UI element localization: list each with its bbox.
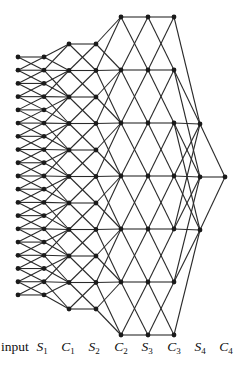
edge-s2-c2 [96, 150, 121, 176]
edge-s1-c1 [44, 97, 69, 110]
node-input [16, 226, 21, 231]
node-s1 [42, 213, 47, 218]
node-input [16, 94, 21, 99]
node-c3 [172, 280, 177, 285]
edge-s1-c1 [44, 282, 69, 309]
node-s1 [42, 147, 47, 152]
node-c2 [119, 15, 124, 20]
node-s3 [146, 121, 151, 126]
edge-s2-c2 [96, 123, 121, 124]
edge-s4-c4 [200, 124, 225, 177]
edge-c3-s4 [174, 70, 200, 124]
layer-label-c1: C1 [61, 339, 75, 356]
label-sub: 3 [148, 346, 153, 356]
edge-s1-c1 [44, 163, 69, 177]
node-s3 [146, 68, 151, 73]
node-input [16, 293, 21, 298]
label-main: S [194, 339, 201, 354]
node-s1 [42, 68, 47, 73]
layer-label-s1: S1 [36, 339, 47, 356]
edge-s2-c2 [96, 176, 121, 177]
node-s2 [94, 148, 99, 153]
node-input [16, 213, 21, 218]
edge-s1-c1 [44, 242, 69, 256]
node-s1 [42, 293, 47, 298]
node-s3 [146, 174, 151, 179]
edge-c3-s4 [174, 230, 200, 282]
edge-s1-c1 [44, 150, 69, 163]
label-sub: 1 [70, 346, 75, 356]
node-c2 [119, 280, 124, 285]
label-main: S [36, 339, 43, 354]
node-input [16, 174, 21, 179]
layer-label-s3: S3 [141, 339, 152, 356]
edge-s2-c2 [96, 229, 121, 230]
node-c3 [172, 174, 177, 179]
node-s2 [94, 254, 99, 259]
layer-label-s4: S4 [194, 339, 205, 356]
label-main: S [88, 339, 95, 354]
node-c2 [119, 333, 124, 338]
node-input [16, 81, 21, 86]
node-s1 [42, 266, 47, 271]
edge-s2-c2 [96, 17, 121, 44]
node-c3 [172, 227, 177, 232]
node-s2 [94, 121, 99, 126]
node-c1 [67, 42, 72, 47]
node-c2 [119, 68, 124, 73]
node-c1 [67, 95, 72, 100]
edge-s1-c1 [44, 44, 69, 70]
node-input [16, 68, 21, 73]
node-s1 [42, 200, 47, 205]
layer-label-input: input [1, 339, 29, 355]
node-s1 [42, 226, 47, 231]
edge-s2-c2 [96, 123, 121, 150]
edge-s2-c2 [96, 97, 121, 123]
edge-s1-c1 [44, 283, 69, 295]
edge-s2-c2 [96, 203, 121, 229]
node-s1 [42, 160, 47, 165]
network-diagram [0, 0, 244, 367]
node-c3 [172, 121, 177, 126]
node-s2 [94, 307, 99, 312]
edge-s2-c2 [96, 309, 121, 335]
node-s2 [94, 42, 99, 47]
node-c1 [67, 254, 72, 259]
node-s4 [198, 122, 203, 127]
node-c1 [67, 227, 72, 232]
edge-s1-c1 [44, 230, 69, 243]
edge-s1-c1 [44, 229, 69, 230]
node-input [16, 134, 21, 139]
edge-s2-c2 [96, 44, 121, 70]
node-s3 [146, 15, 151, 20]
node-s1 [42, 55, 47, 60]
node-c1 [67, 307, 72, 312]
node-c2 [119, 227, 124, 232]
edge-s1-c1 [44, 57, 69, 71]
label-main: C [114, 339, 123, 354]
node-input [16, 200, 21, 205]
node-input [16, 121, 21, 126]
edge-s1-c1 [44, 216, 69, 230]
node-s1 [42, 107, 47, 112]
edge-s1-c1 [44, 203, 69, 216]
node-c1 [67, 201, 72, 206]
edge-s1-c1 [44, 256, 69, 269]
node-c4 [223, 175, 228, 180]
node-input [16, 240, 21, 245]
node-input [16, 147, 21, 152]
label-sub: 2 [123, 346, 128, 356]
node-c1 [67, 148, 72, 153]
edge-c3-s4 [174, 230, 200, 335]
edge-s2-c2 [96, 229, 121, 256]
layer-label-c4: C4 [219, 339, 233, 356]
node-c3 [172, 15, 177, 20]
edge-s2-c2 [96, 17, 121, 71]
edge-s1-c1 [44, 71, 69, 84]
node-s1 [42, 174, 47, 179]
node-c1 [67, 174, 72, 179]
node-s4 [198, 228, 203, 233]
edge-s1-c1 [44, 124, 69, 137]
edge-s1-c1 [44, 177, 69, 190]
edge-s4-c4 [200, 177, 225, 230]
